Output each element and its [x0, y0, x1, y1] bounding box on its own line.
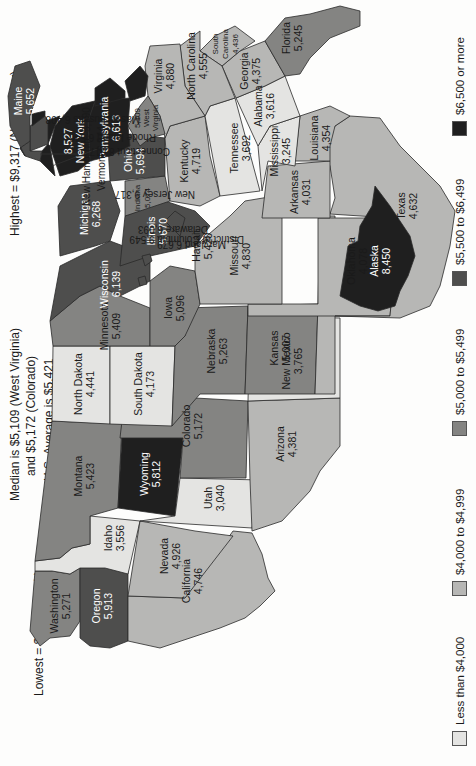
callout-dc: District of Columbia 9,549	[129, 234, 244, 245]
state-arizona[interactable]	[248, 398, 340, 531]
value-kentucky: 4,719	[190, 148, 202, 174]
value-georgia: 4,375	[250, 58, 262, 84]
label-south-carolina-1: South	[211, 34, 220, 55]
svg-text:Nevada4,926: Nevada4,926	[158, 538, 182, 574]
label-north-carolina: North Carolina	[185, 32, 197, 100]
label-washington: Washington	[48, 578, 60, 633]
state-maryland-delaware[interactable]	[125, 66, 148, 101]
value-nevada: 4,926	[170, 543, 182, 569]
label-idaho: Idaho	[102, 525, 114, 551]
legend-swatch	[452, 121, 467, 136]
label-montana: Montana	[72, 455, 84, 496]
label-nebraska: Nebraska	[205, 328, 217, 373]
callout-delaware: Delaware 6,093	[138, 224, 208, 235]
us-state-map: Washington5,271 Oregon5,913 California4,…	[0, 0, 476, 766]
legend-item-5000-5499: $5,000 to $5,499	[452, 329, 467, 436]
value-tennessee: 3,692	[240, 135, 252, 161]
value-new-mexico: 3,765	[292, 348, 304, 374]
legend-item-4000-4999: $4,000 to $4,999	[452, 489, 467, 596]
callout-new-jersey: New Jersey 9,317	[115, 189, 195, 200]
value-montana: 5,423	[84, 463, 96, 489]
callout-massachusetts: Massachusetts 6,408	[45, 114, 140, 125]
svg-text:Kansas5,007: Kansas5,007	[268, 330, 292, 365]
value-wyoming: 5,812	[150, 461, 162, 487]
legend: Less than $4,000 $4,000 to $4,999 $5,000…	[452, 0, 472, 766]
label-iowa: Iowa	[162, 297, 174, 319]
value-washington: 5,271	[60, 593, 72, 619]
label-nevada: Nevada	[158, 538, 170, 574]
value-south-dakota: 4,173	[144, 371, 156, 397]
callout-connecticut: Connecticut 8,017	[89, 146, 170, 157]
label-alabama: Alabama	[252, 85, 264, 127]
value-virginia: 4,880	[164, 63, 176, 89]
label-wyoming: Wyoming	[138, 452, 150, 496]
label-texas: Texas	[395, 192, 407, 219]
value-idaho: 3,556	[114, 525, 126, 551]
label-florida: Florida	[280, 22, 292, 54]
label-colorado: Colorado	[180, 405, 192, 448]
value-south-carolina: 4,436	[231, 33, 240, 54]
value-colorado: 5,172	[192, 413, 204, 439]
label-tennessee: Tennessee	[228, 122, 240, 173]
legend-swatch	[452, 581, 467, 596]
value-missouri: 4,830	[240, 243, 252, 269]
callout-rhode-island: Rhode Island 6,546	[69, 132, 156, 143]
value-iowa: 5,096	[174, 295, 186, 321]
label-wisconsin: Wisconsin	[98, 260, 110, 308]
label-south-dakota: South Dakota	[132, 352, 144, 416]
label-kansas: Kansas	[268, 330, 280, 365]
label-south-carolina-2: Carolina	[221, 29, 230, 59]
label-north-dakota: North Dakota	[72, 353, 84, 415]
label-utah: Utah	[202, 487, 214, 509]
value-utah: 3,040	[214, 485, 226, 511]
value-arkansas: 4,031	[300, 179, 312, 205]
value-alabama: 3,616	[264, 93, 276, 119]
legend-item-6500-or-more: $6,500 or more	[452, 37, 467, 136]
label-west-virginia-2: Virginia	[151, 104, 160, 131]
svg-text:Georgia4,375: Georgia4,375	[238, 52, 262, 90]
label-oregon: Oregon	[90, 588, 102, 623]
value-louisiana: 4,354	[320, 125, 332, 151]
legend-swatch	[452, 731, 467, 746]
state-hawaii-oahu[interactable]	[138, 276, 147, 286]
label-mississippi: Mississippi	[268, 126, 280, 177]
label-alaska: Alaska	[368, 245, 380, 277]
label-kentucky: Kentucky	[178, 139, 190, 183]
value-mississippi: 3,245	[280, 138, 292, 164]
rotated-map-figure: Lowest = $3,040 (Utah) Median is $5,109 …	[0, 0, 476, 766]
value-kansas: 5,007	[280, 335, 292, 361]
value-north-carolina: 4,555	[197, 53, 209, 79]
value-texas: 4,632	[407, 193, 419, 219]
svg-text:Maine5,652: Maine5,652	[12, 87, 36, 116]
label-louisiana: Louisiana	[308, 115, 320, 160]
legend-item-less-than-4000: Less than $4,000	[452, 637, 467, 746]
label-virginia: Virginia	[152, 58, 164, 93]
label-minnesota: Minnesota	[98, 302, 110, 351]
svg-text:Alaska8,450: Alaska8,450	[368, 245, 392, 277]
svg-text:Texas4,632: Texas4,632	[395, 192, 419, 219]
label-arizona: Arizona	[274, 426, 286, 462]
svg-text:Arizona4,381: Arizona4,381	[274, 426, 298, 462]
svg-text:Idaho3,556: Idaho3,556	[102, 525, 126, 551]
value-florida: 5,245	[292, 25, 304, 51]
label-maine: Maine	[12, 87, 24, 116]
svg-text:Oregon5,913: Oregon5,913	[90, 588, 114, 623]
value-alaska: 8,450	[380, 248, 392, 274]
value-north-dakota: 4,441	[84, 371, 96, 397]
svg-text:Virginia4,880: Virginia4,880	[152, 58, 176, 93]
value-minnesota: 5,409	[110, 313, 122, 339]
label-arkansas: Arkansas	[288, 170, 300, 214]
value-maine: 5,652	[24, 88, 36, 114]
value-oregon: 5,913	[102, 593, 114, 619]
label-georgia: Georgia	[238, 52, 250, 90]
value-california: 4,746	[192, 568, 204, 594]
legend-swatch	[452, 271, 467, 286]
value-wisconsin: 6,139	[110, 271, 122, 297]
legend-swatch	[452, 421, 467, 436]
label-oklahoma: Oklahoma	[345, 237, 357, 285]
label-west-virginia-1: West	[142, 108, 151, 127]
value-arizona: 4,381	[286, 431, 298, 457]
svg-text:Utah3,040: Utah3,040	[202, 485, 226, 511]
svg-text:Iowa5,096: Iowa5,096	[162, 295, 186, 321]
value-nebraska: 5,263	[217, 338, 229, 364]
